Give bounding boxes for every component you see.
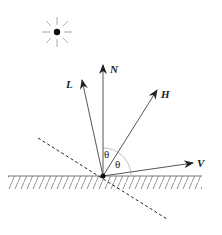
label-H: H [160, 88, 170, 100]
theta-label-1: θ [104, 148, 109, 160]
reflection-diagram: N L H V θ θ [0, 0, 222, 235]
surface-hatching [8, 176, 202, 189]
vector-H [103, 90, 157, 176]
sun-icon [42, 17, 72, 47]
label-N: N [109, 63, 119, 75]
origin-point [101, 174, 106, 179]
theta-label-2: θ [115, 158, 120, 170]
vector-L [82, 80, 103, 176]
label-V: V [197, 157, 206, 169]
label-L: L [65, 78, 73, 90]
